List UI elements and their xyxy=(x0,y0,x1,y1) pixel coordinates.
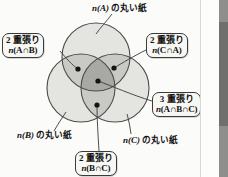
page-edge-shadow-inner xyxy=(219,22,228,126)
dot-a-int-b-int-c xyxy=(95,78,100,83)
label-circle-a: n(A) の丸い紙 xyxy=(92,4,147,13)
diagram-stage: 2 重張り n(A∩B) 2 重張り n(C∩A) 3 重張り n(A∩B∩C)… xyxy=(0,0,228,177)
label-circle-a-math: n(A) xyxy=(92,3,109,13)
callout-a-int-b-int-c-line2: n(A∩B∩C) xyxy=(156,104,197,114)
dot-a-int-b xyxy=(75,66,80,71)
callout-a-int-b-int-c[interactable]: 3 重張り n(A∩B∩C) xyxy=(152,92,201,117)
label-circle-c-text: の丸い紙 xyxy=(140,135,178,145)
callout-a-int-b-int-c-expr: (A∩B∩C) xyxy=(161,104,198,114)
callout-a-int-b-line1: 2 重張り xyxy=(6,35,40,45)
label-circle-c-math: n(C) xyxy=(123,135,140,145)
callout-b-int-c-line2: n(B∩C) xyxy=(79,163,113,173)
label-circle-a-text: の丸い紙 xyxy=(109,3,147,13)
label-circle-c: n(C) の丸い紙 xyxy=(123,136,178,145)
callout-b-int-c[interactable]: 2 重張り n(B∩C) xyxy=(75,151,117,176)
callout-a-int-b-expr: (A∩B) xyxy=(13,45,37,55)
label-circle-b: n(B) の丸い紙 xyxy=(17,131,72,140)
callout-a-int-b-int-c-line1: 3 重張り xyxy=(156,94,197,104)
callout-b-int-c-expr: (B∩C) xyxy=(86,163,110,173)
callout-c-int-a-line2: n(C∩A) xyxy=(150,45,184,55)
dot-b-int-c xyxy=(94,102,99,107)
callout-c-int-a[interactable]: 2 重張り n(C∩A) xyxy=(146,33,188,58)
callout-a-int-b-line2: n(A∩B) xyxy=(6,45,40,55)
dot-c-int-a xyxy=(111,65,116,70)
label-circle-b-text: の丸い紙 xyxy=(34,130,72,140)
callout-a-int-b[interactable]: 2 重張り n(A∩B) xyxy=(2,33,44,58)
label-circle-b-math: n(B) xyxy=(17,130,34,140)
venn-diagram-svg xyxy=(0,0,228,177)
callout-c-int-a-line1: 2 重張り xyxy=(150,35,184,45)
callout-b-int-c-line1: 2 重張り xyxy=(79,153,113,163)
figure-root: 2 重張り n(A∩B) 2 重張り n(C∩A) 3 重張り n(A∩B∩C)… xyxy=(0,0,228,177)
callout-c-int-a-expr: (C∩A) xyxy=(157,45,181,55)
